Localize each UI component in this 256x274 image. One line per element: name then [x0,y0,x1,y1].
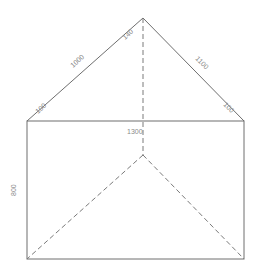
height-label: 800 [10,184,17,196]
apex-angle-label: 140 [121,28,134,41]
right-slope-label: 1100 [194,55,210,71]
right-hidden-line [143,155,244,259]
right-corner-label: 100 [222,101,235,114]
wall-rectangle [27,121,244,259]
left-hidden-line [27,155,143,259]
roof-diagram: 1000 1100 140 100 100 1300 800 [0,0,256,274]
width-label: 1300 [127,128,143,135]
left-corner-label: 100 [34,102,47,115]
left-slope-label: 1000 [69,53,85,69]
